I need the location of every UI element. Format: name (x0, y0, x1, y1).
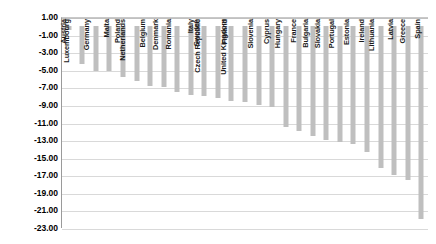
bar[interactable] (256, 26, 261, 105)
bars-layer: AustriaLuxembourgGermanyMaltaPolandNethe… (62, 17, 428, 228)
bar[interactable] (392, 26, 397, 175)
y-axis-tick-label: -23.00 (2, 224, 58, 233)
bar-group[interactable]: Slovenia (252, 17, 266, 228)
category-label-wrapper: United Kingdom (217, 0, 224, 19)
category-label: Greece (398, 19, 405, 43)
category-label: Cyprus (263, 19, 270, 44)
bar-group[interactable]: Germany (89, 17, 103, 228)
category-label-wrapper: Hungary (271, 0, 278, 19)
bar[interactable] (202, 26, 207, 96)
category-label-wrapper: Lithuania (365, 0, 372, 19)
category-label-wrapper: Belgium (136, 0, 143, 19)
category-label: Hungary (274, 19, 281, 48)
category-label: Bulgaria (301, 19, 308, 48)
category-label: Spain (414, 19, 421, 39)
category-label-wrapper: Portugal (325, 0, 332, 19)
category-label: Malta (103, 19, 110, 37)
y-axis-tick-label: -17.00 (2, 171, 58, 180)
bar[interactable] (229, 26, 234, 101)
category-label: Ireland (358, 19, 365, 43)
bar-group[interactable]: Lithuania (374, 17, 388, 228)
bar[interactable] (378, 26, 383, 168)
y-axis-tick-label: 1.00 (2, 13, 58, 22)
bar[interactable] (419, 26, 424, 219)
category-label: Slovenia (247, 19, 254, 49)
category-label: France (290, 19, 297, 43)
category-label-wrapper: Slovakia (312, 0, 319, 19)
bar-group[interactable]: Romania (170, 17, 184, 228)
y-axis-tick-label: -9.00 (2, 101, 58, 110)
bar-chart: 1.00-1.00-3.00-5.00-7.00-9.00-11.00-13.0… (0, 0, 436, 244)
bar-group[interactable]: United Kingdom (238, 17, 252, 228)
category-label: Lithuania (368, 19, 375, 51)
y-axis-tick-label: -21.00 (2, 206, 58, 215)
bar[interactable] (93, 26, 98, 72)
bar[interactable] (175, 26, 180, 92)
bar-group[interactable]: Cyprus (265, 17, 279, 228)
category-label-wrapper: Latvia (384, 0, 391, 19)
bar[interactable] (283, 26, 288, 127)
category-label-wrapper: Cyprus (260, 0, 267, 19)
category-label-wrapper: Germany (80, 0, 87, 19)
category-label-wrapper: Spain (411, 0, 418, 19)
bar-group[interactable]: Malta (103, 17, 117, 228)
category-label: Belgium (139, 19, 146, 47)
y-axis-tick-label: -5.00 (2, 66, 58, 75)
category-label-wrapper: France (287, 0, 294, 19)
y-axis-tick-label: -15.00 (2, 153, 58, 162)
y-axis-tick-label: -19.00 (2, 189, 58, 198)
category-label-wrapper: Romania (162, 0, 169, 19)
category-label: Slovakia (315, 19, 322, 48)
category-label-wrapper: Netherlands (116, 0, 123, 19)
bar-group[interactable]: Netherlands (130, 17, 144, 228)
category-label-wrapper: Malta (100, 1, 107, 19)
bar[interactable] (351, 26, 356, 145)
y-axis-tick-label: -7.00 (2, 83, 58, 92)
bar-group[interactable]: Slovakia (320, 17, 334, 228)
bar-group[interactable]: Bulgaria (306, 17, 320, 228)
category-label-wrapper: Estonia (340, 0, 347, 19)
category-label-wrapper: Slovenia (244, 0, 251, 19)
category-label: Romania (165, 19, 172, 50)
y-axis-tick-label: -11.00 (2, 118, 58, 127)
category-label: Estonia (343, 19, 350, 45)
category-label: Czech Republic (194, 19, 201, 73)
category-label: United Kingdom (220, 19, 227, 75)
gridline (62, 229, 428, 230)
y-axis-tick-label: -13.00 (2, 136, 58, 145)
bar-group[interactable]: Greece (401, 17, 415, 228)
category-label: Latvia (387, 19, 394, 40)
category-label: Denmark (151, 19, 158, 50)
bar-group[interactable]: Spain (414, 17, 428, 228)
category-label: Netherlands (119, 19, 126, 61)
bar-group[interactable]: Estonia (347, 17, 361, 228)
category-label-wrapper: Denmark (148, 0, 155, 19)
y-axis-tick-labels: 1.00-1.00-3.00-5.00-7.00-9.00-11.00-13.0… (0, 17, 58, 228)
bar-group[interactable]: Latvia (387, 17, 401, 228)
category-label-wrapper: Ireland (355, 0, 362, 19)
bar[interactable] (405, 26, 410, 180)
bar-group[interactable]: Hungary (279, 17, 293, 228)
category-label: Portugal (328, 19, 335, 48)
category-label-wrapper: Luxembourg (60, 0, 67, 19)
category-label: Germany (83, 19, 90, 50)
bar-group[interactable]: France (292, 17, 306, 228)
category-label-wrapper: Czech Republic (191, 0, 198, 19)
category-label: Luxembourg (63, 19, 70, 63)
category-label-wrapper: Greece (395, 0, 402, 19)
y-axis-tick-label: -1.00 (2, 30, 58, 39)
category-label-wrapper: Bulgaria (298, 0, 305, 19)
bar-group[interactable]: Portugal (333, 17, 347, 228)
y-axis-tick-label: -3.00 (2, 48, 58, 57)
